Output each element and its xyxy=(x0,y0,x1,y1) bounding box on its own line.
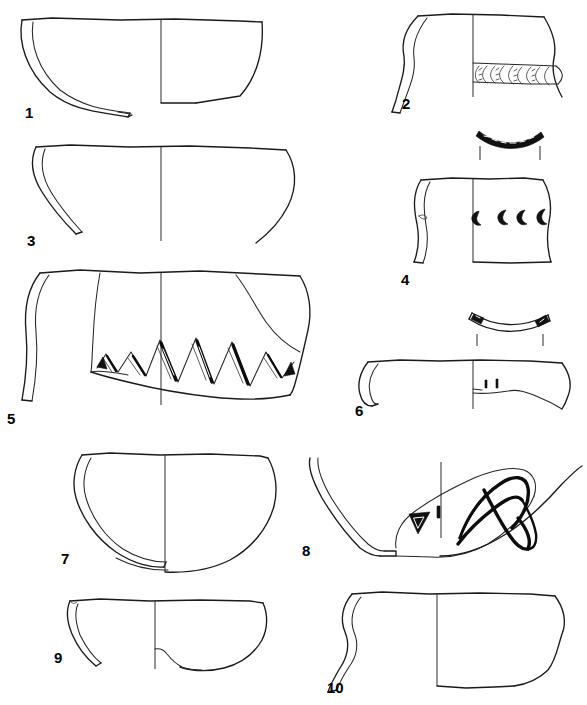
rim-arc-profile-figure-4 xyxy=(476,131,544,160)
figure-label-8: 8 xyxy=(302,543,310,558)
figure-label-6: 6 xyxy=(355,403,363,418)
rim-arc-profile-figure-6 xyxy=(469,313,550,346)
figure-label-5: 5 xyxy=(7,411,15,426)
figure-label-9: 9 xyxy=(54,650,62,665)
punctate-ticks-figure-6 xyxy=(485,379,498,388)
incised-decoration-figure-8 xyxy=(409,478,536,550)
figure-4-drawing xyxy=(414,131,551,263)
figure-label-1: 1 xyxy=(25,105,33,120)
pottery-plate: 1 2 3 4 5 6 7 8 9 10 xyxy=(0,0,587,705)
figure-label-3: 3 xyxy=(27,233,35,248)
pottery-drawing-canvas xyxy=(0,0,587,705)
figure-1-drawing xyxy=(21,18,262,117)
figure-7-drawing xyxy=(74,453,276,572)
figure-label-2: 2 xyxy=(402,96,410,111)
arc-impression-band-figure-2 xyxy=(475,66,549,85)
figure-label-10: 10 xyxy=(327,680,344,695)
incised-zigzag-frieze-figure-5 xyxy=(97,338,295,386)
crescent-impressions-figure-4 xyxy=(472,209,547,225)
figure-2-drawing xyxy=(392,14,562,113)
figure-3-drawing xyxy=(33,145,295,243)
figure-6-drawing xyxy=(359,313,570,409)
figure-label-4: 4 xyxy=(401,272,409,287)
figure-10-drawing xyxy=(328,592,564,692)
figure-9-drawing xyxy=(68,599,267,671)
figure-label-7: 7 xyxy=(61,551,69,566)
figure-8-drawing xyxy=(310,458,583,557)
figure-5-drawing xyxy=(22,270,310,405)
